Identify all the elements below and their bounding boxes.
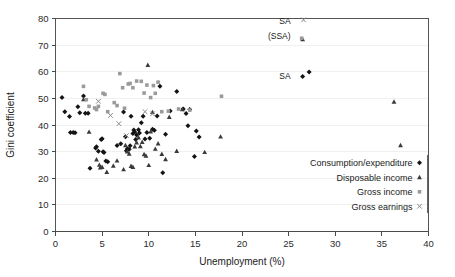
data-point — [220, 94, 224, 98]
data-point — [115, 158, 120, 162]
x-tick-label: 35 — [377, 238, 388, 249]
y-tick-label: 10 — [38, 199, 49, 210]
data-point — [307, 70, 312, 75]
data-point — [97, 162, 102, 166]
y-axis-ticks: 01020304050607080 — [38, 13, 56, 237]
data-point — [75, 104, 80, 109]
x-tick-label: 5 — [99, 238, 104, 249]
legend-label[interactable]: Gross income — [357, 187, 413, 197]
data-point — [87, 129, 92, 133]
data-point — [84, 98, 88, 102]
y-tick-label: 60 — [38, 66, 49, 77]
data-point — [108, 113, 113, 118]
data-point — [143, 109, 148, 114]
data-point — [156, 141, 161, 145]
data-point — [104, 170, 109, 174]
legend-marker-triangle — [417, 175, 422, 179]
data-point — [153, 146, 158, 150]
data-point — [88, 166, 93, 171]
x-tick-label: 25 — [283, 238, 294, 249]
y-tick-label: 0 — [43, 226, 48, 237]
data-point — [192, 154, 197, 159]
data-point — [300, 74, 305, 79]
data-point — [163, 132, 168, 137]
data-point — [140, 80, 144, 84]
data-point — [153, 92, 157, 96]
data-point — [96, 99, 101, 104]
data-point — [62, 109, 67, 114]
data-point — [115, 104, 119, 108]
x-axis-ticks: 0510152025303540 — [53, 232, 434, 249]
legend: Consumption/expenditureDisposable income… — [310, 155, 428, 213]
data-point — [106, 110, 110, 114]
y-tick-label: 30 — [38, 146, 49, 157]
data-point — [86, 111, 91, 116]
y-tick-label: 40 — [38, 120, 49, 131]
x-axis-title: Unemployment (%) — [199, 256, 285, 267]
data-point — [300, 36, 304, 40]
data-point — [87, 105, 91, 109]
data-point — [129, 114, 134, 119]
x-tick-label: 30 — [330, 238, 341, 249]
data-point — [121, 167, 126, 171]
x-tick-label: 15 — [190, 238, 201, 249]
data-point — [194, 129, 199, 134]
data-point — [144, 130, 149, 135]
data-point — [174, 149, 179, 153]
legend-label[interactable]: Gross earnings — [351, 202, 413, 212]
data-point — [118, 72, 122, 76]
data-point — [185, 123, 190, 128]
data-point — [132, 144, 137, 148]
data-point — [152, 84, 156, 88]
y-tick-label: 50 — [38, 93, 49, 104]
data-point — [177, 107, 181, 111]
data-point — [167, 109, 171, 113]
data-point — [143, 137, 148, 142]
data-point — [160, 110, 164, 114]
data-point — [131, 86, 135, 90]
data-point — [67, 114, 72, 119]
data-point — [123, 106, 127, 110]
x-tick-label: 10 — [143, 238, 154, 249]
data-point — [96, 149, 101, 154]
data-point — [95, 108, 99, 112]
x-tick-label: 0 — [53, 238, 58, 249]
point-annotation: SA — [279, 71, 291, 81]
data-point — [97, 105, 101, 109]
legend-marker-diamond — [417, 160, 422, 165]
data-point — [82, 85, 86, 89]
data-point — [197, 134, 202, 139]
chart-canvas: 0510152025303540 01020304050607080 SA(SS… — [0, 0, 455, 277]
data-point — [121, 109, 126, 114]
data-point — [184, 111, 189, 116]
data-point — [111, 163, 116, 167]
data-point — [155, 113, 160, 118]
data-point — [145, 63, 150, 67]
y-axis-title: Gini coefficient — [5, 92, 16, 158]
data-point — [123, 143, 128, 147]
data-point — [77, 110, 82, 115]
legend-label[interactable]: Disposable income — [336, 173, 412, 183]
data-point — [160, 170, 165, 175]
data-point — [121, 86, 125, 90]
point-annotation: SA — [279, 16, 291, 26]
y-tick-label: 20 — [38, 173, 49, 184]
data-point — [157, 84, 162, 89]
data-point — [156, 80, 160, 84]
data-point — [174, 89, 179, 94]
series-square — [82, 36, 304, 113]
x-tick-label: 40 — [423, 238, 434, 249]
data-point — [218, 134, 223, 138]
legend-marker-square — [418, 190, 422, 194]
series-triangle — [81, 37, 403, 174]
data-point — [141, 114, 146, 119]
data-point — [398, 143, 403, 147]
y-tick-label: 70 — [38, 40, 49, 51]
data-point — [159, 151, 164, 155]
legend-label[interactable]: Consumption/expenditure — [310, 158, 413, 168]
data-point — [94, 157, 99, 161]
data-point — [163, 157, 168, 161]
data-point — [60, 95, 65, 100]
data-point — [135, 79, 139, 83]
data-point — [392, 99, 397, 103]
